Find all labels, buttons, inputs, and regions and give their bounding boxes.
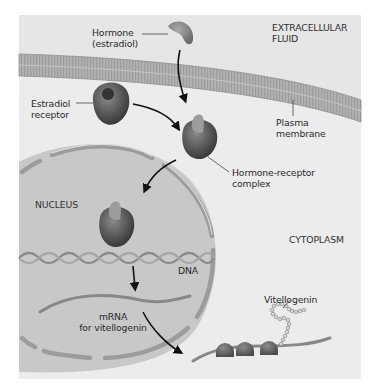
estradiol-receptor-label: Estradiol receptor bbox=[31, 98, 70, 120]
hormone-label: Hormone (estradiol) bbox=[92, 27, 138, 49]
nucleus-label: NUCLEUS bbox=[35, 199, 78, 210]
vitellogenin-label: Vitellogenin bbox=[264, 294, 317, 305]
cytoplasm-label: CYTOPLASM bbox=[289, 234, 344, 245]
hormone-signaling-diagram: EXTRACELLULAR FLUID Hormone (estradiol) … bbox=[0, 0, 375, 388]
extracellular-fluid-label: EXTRACELLULAR FLUID bbox=[272, 22, 347, 44]
ribosomes bbox=[216, 341, 278, 357]
dna-label: DNA bbox=[178, 265, 198, 276]
mrna-label: mRNA for vitellogenin bbox=[53, 311, 173, 333]
plasma-membrane-label: Plasma membrane bbox=[276, 117, 326, 139]
hormone-receptor-complex-label: Hormone-receptor complex bbox=[232, 167, 315, 189]
